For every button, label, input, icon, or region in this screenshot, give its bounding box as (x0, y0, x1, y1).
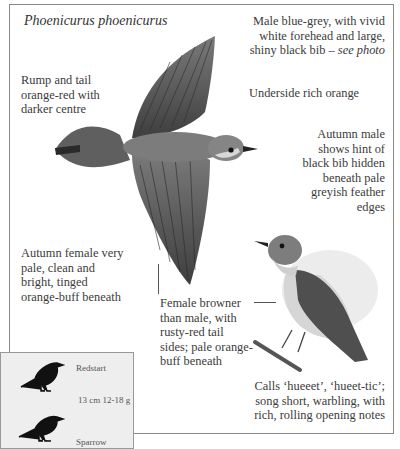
size-comparison-box: Redstart 13 cm 12-18 g Sparrow (0, 352, 134, 449)
pointer-line-autumn-female (158, 264, 159, 294)
measurements-label: 13 cm 12-18 g (78, 395, 130, 405)
comparison-label: Sparrow (76, 437, 107, 447)
annotation-calls: Calls ‘hueeet’, ‘hueet-tic’; song short,… (254, 379, 385, 423)
annotation-autumn-male: Autumn male shows hint of black bib hidd… (302, 127, 385, 215)
see-photo-reference: see photo (338, 43, 385, 57)
pointer-line-female (254, 302, 276, 303)
annotation-underside: Underside rich orange (249, 86, 359, 101)
annotation-female: Female browner than male, with rusty-red… (160, 296, 253, 369)
species-label: Redstart (76, 363, 106, 373)
annotation-rump: Rump and tail orange-red with darker cen… (21, 73, 100, 117)
annotation-male: Male blue-grey, with vivid white forehea… (250, 14, 385, 58)
redstart-silhouette-icon (17, 357, 67, 397)
sparrow-silhouette-icon (17, 407, 67, 447)
annotation-autumn-female: Autumn female very pale, clean and brigh… (21, 246, 124, 304)
